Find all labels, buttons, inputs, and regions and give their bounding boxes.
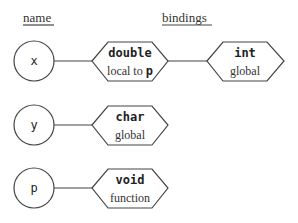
binding-type: char: [116, 110, 145, 124]
name-label: y: [30, 118, 37, 132]
binding-scope: local to p: [107, 64, 153, 78]
binding-scope: global: [115, 128, 146, 142]
name-label: p: [30, 181, 37, 195]
binding-type: int: [234, 46, 256, 60]
header-name: name: [23, 10, 51, 25]
header-bindings: bindings: [162, 10, 207, 25]
binding-type: void: [116, 173, 145, 187]
name-label: x: [30, 54, 37, 68]
binding-scope: function: [110, 191, 150, 205]
row-p: p void function: [14, 168, 168, 208]
scope-code: p: [146, 64, 153, 78]
binding-scope: global: [230, 64, 261, 78]
binding-diagram: name bindings x double local to p int gl…: [0, 0, 298, 223]
scope-text: local to: [107, 64, 146, 78]
row-x: x double local to p int global: [14, 41, 284, 81]
row-y: y char global: [14, 105, 168, 145]
binding-type: double: [108, 46, 151, 60]
